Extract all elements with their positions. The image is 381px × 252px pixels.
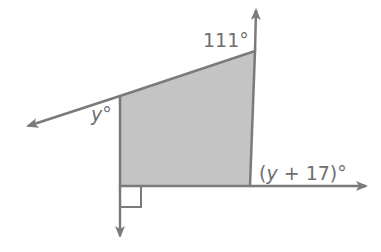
ray-up — [255, 10, 256, 51]
right-angle-mark — [120, 186, 141, 207]
geometry-diagram: 111° y° (y + 17)° — [0, 0, 381, 252]
angle-label-y-plus-17: (y + 17)° — [259, 162, 347, 184]
angle-label-y: y° — [90, 103, 112, 125]
angle-label-111: 111° — [203, 29, 249, 51]
shaded-quadrilateral — [120, 51, 255, 186]
